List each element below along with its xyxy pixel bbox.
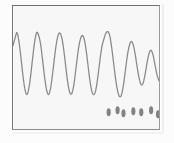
trough-marker: [121, 109, 125, 117]
signal-trace-line: [13, 32, 159, 97]
trough-marker: [149, 106, 153, 114]
trough-marker: [131, 107, 135, 115]
trough-marker: [139, 108, 143, 116]
trough-marker: [156, 110, 159, 118]
trough-marker-group: [107, 106, 159, 118]
figure-root: [0, 0, 174, 143]
trough-marker: [115, 106, 119, 114]
plot-frame: [12, 5, 160, 130]
trace-group: [13, 32, 159, 97]
trough-marker: [107, 108, 111, 116]
scan-edge-right: [162, 4, 164, 132]
scan-edge-bottom: [12, 132, 164, 134]
waveform-plot: [13, 6, 159, 129]
